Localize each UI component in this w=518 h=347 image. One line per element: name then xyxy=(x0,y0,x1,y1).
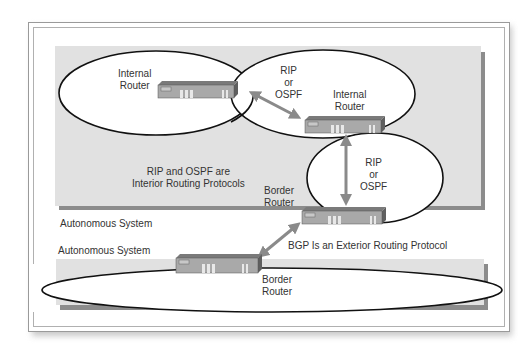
router-label-line: Router xyxy=(333,101,366,113)
network-diagram xyxy=(0,0,518,347)
router-label-line: Border xyxy=(264,185,294,197)
link-label-line: or xyxy=(360,169,387,181)
note-line: Interior Routing Protocols xyxy=(132,178,245,190)
link-label-line: or xyxy=(275,77,302,89)
router-label-line: Router xyxy=(264,197,294,209)
border-router-lower-label: Border Router xyxy=(262,274,292,298)
interior-protocols-note: RIP and OSPF are Interior Routing Protoc… xyxy=(132,166,245,190)
upper-as-label: Autonomous System xyxy=(60,218,152,230)
link-label-line: RIP xyxy=(275,65,302,77)
link-label-line: OSPF xyxy=(360,181,387,193)
router-icon-internal-2[interactable] xyxy=(305,116,385,133)
router-icon-internal-1[interactable] xyxy=(158,81,238,98)
internal-router-2-label: Internal Router xyxy=(333,89,366,113)
link-label-line: RIP xyxy=(360,157,387,169)
internal-router-1-label: Internal Router xyxy=(118,68,151,92)
lower-as-label: Autonomous System xyxy=(58,245,150,257)
router-icon-border-lower[interactable] xyxy=(176,254,262,273)
router-label-line: Router xyxy=(262,286,292,298)
router-label-line: Router xyxy=(118,80,151,92)
link-1-label: RIP or OSPF xyxy=(275,65,302,101)
router-icon-border-upper[interactable] xyxy=(302,207,386,224)
router-label-line: Internal xyxy=(118,68,151,80)
link-label-line: OSPF xyxy=(275,89,302,101)
router-label-line: Border xyxy=(262,274,292,286)
exterior-protocol-note: BGP Is an Exterior Routing Protocol xyxy=(288,240,447,252)
note-line: RIP and OSPF are xyxy=(132,166,245,178)
link-2-label: RIP or OSPF xyxy=(360,157,387,193)
border-router-upper-label: Border Router xyxy=(264,185,294,209)
router-label-line: Internal xyxy=(333,89,366,101)
